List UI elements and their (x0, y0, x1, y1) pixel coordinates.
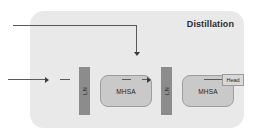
layer-norm-label-second: LN (164, 87, 170, 95)
head-label: Head (223, 77, 243, 83)
skip-connection-horizontal (13, 25, 137, 26)
skip-connection-vertical (136, 25, 137, 53)
arrow-right-icon (147, 77, 151, 83)
connector-attention-to-head (204, 79, 222, 80)
layer-norm-block-first: LN (79, 67, 90, 115)
input-connector (8, 79, 46, 80)
distillation-architecture-diagram: Distillation LN MHSA LN MHSA Head (0, 0, 256, 140)
connector-attention-to-norm-second (122, 79, 131, 80)
arrow-down-icon (134, 52, 140, 56)
panel-title: Distillation (187, 19, 234, 29)
mhsa-label-second: MHSA (183, 88, 233, 95)
head-block: Head (222, 74, 244, 86)
mhsa-label-first: MHSA (101, 88, 151, 95)
layer-norm-block-second: LN (161, 67, 172, 115)
layer-norm-label-first: LN (82, 87, 88, 95)
arrow-right-icon (45, 77, 49, 83)
connector-norm-to-attention-first (60, 79, 70, 80)
architecture-panel: Distillation LN MHSA LN MHSA (30, 11, 244, 128)
